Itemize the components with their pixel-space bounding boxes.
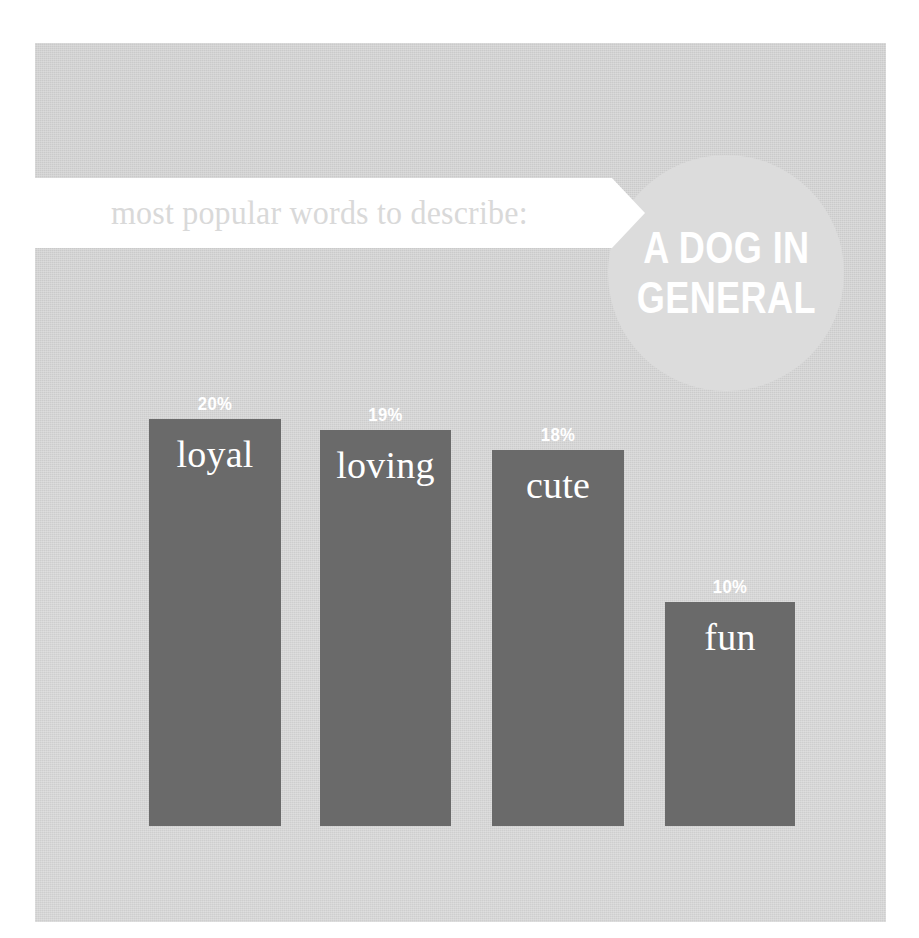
chart-panel: most popular words to describe: A DOG IN… — [35, 43, 886, 922]
badge-line-1: A DOG IN — [643, 225, 809, 271]
bar-loyal[interactable] — [149, 419, 281, 826]
bar-label-loving: loving — [320, 445, 451, 485]
bar-value-fun: 10% — [673, 576, 787, 598]
bar-value-loving: 19% — [328, 404, 443, 426]
badge-line-2: GENERAL — [636, 275, 815, 321]
bar-value-loyal: 20% — [157, 393, 273, 415]
bar-group-cute: 18% cute — [492, 450, 624, 826]
bar-value-cute: 18% — [500, 424, 616, 446]
bar-label-fun: fun — [665, 617, 795, 657]
bar-cute[interactable] — [492, 450, 624, 826]
infographic-poster: most popular words to describe: A DOG IN… — [0, 0, 919, 938]
bar-group-fun: 10% fun — [665, 602, 795, 826]
bar-group-loving: 19% loving — [320, 430, 451, 826]
bar-group-loyal: 20% loyal — [149, 419, 281, 826]
bar-loving[interactable] — [320, 430, 451, 826]
ribbon-title-text: most popular words to describe: — [111, 178, 528, 248]
ribbon-arrow-icon — [612, 178, 645, 248]
bar-label-cute: cute — [492, 465, 624, 505]
bar-label-loyal: loyal — [149, 434, 281, 474]
title-ribbon: most popular words to describe: — [35, 178, 647, 248]
